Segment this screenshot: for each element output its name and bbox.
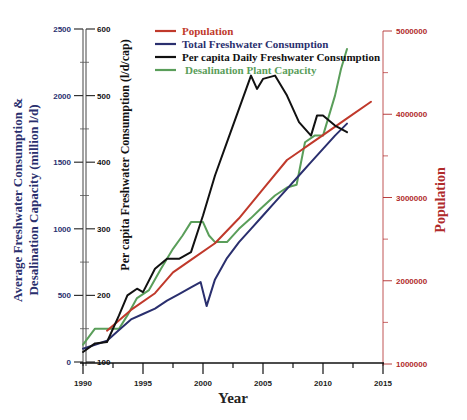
legend-label: Population [182, 25, 233, 37]
left-axis: 01005002001000300150040020005002500600 [53, 25, 111, 367]
per-capita-tick-label: 500 [97, 92, 111, 101]
left-axis-title-line1: Average Freshwater Consumption & [10, 98, 25, 302]
right-tick-label: 3000000 [396, 194, 428, 203]
left-tick-label: 1500 [53, 158, 71, 167]
x-tick-label: 2010 [314, 379, 332, 388]
left-tick-label: 0 [67, 358, 72, 367]
x-tick-label: 1990 [74, 379, 92, 388]
right-tick-label: 4000000 [396, 110, 428, 119]
per-capita-tick-label: 300 [97, 225, 111, 234]
per-capita-tick-label: 200 [97, 291, 111, 300]
left-tick-label: 1000 [53, 225, 71, 234]
legend-label: Desalination Plant Capacity [185, 64, 317, 76]
x-axis: 199019952000200520102015 [74, 363, 392, 388]
legend-label: Per capita Daily Freshwater Consumption [182, 51, 380, 63]
right-axis-title: Population [433, 167, 448, 233]
right-tick-label: 1000000 [396, 360, 428, 369]
x-tick-label: 1995 [134, 379, 152, 388]
left-tick-label: 500 [58, 291, 72, 300]
right-tick-label: 5000000 [396, 27, 428, 36]
legend-label: Total Freshwater Consumption [182, 38, 328, 50]
right-axis: 10000002000000300000040000005000000 [383, 27, 428, 369]
per-capita-tick-label: 400 [97, 158, 111, 167]
per-capita-tick-label: 600 [97, 25, 111, 34]
per-capita-axis-title: Per capita Freshwater Consumption (l/d/c… [118, 39, 132, 270]
x-axis-title: Year [218, 390, 248, 406]
x-tick-label: 2015 [374, 379, 392, 388]
series-population [107, 102, 371, 331]
left-axis-title-line2: Desalination Capacity (million l/d) [26, 104, 41, 295]
chart: 01005002001000300150040020005002500600 1… [0, 0, 467, 420]
x-tick-label: 2005 [254, 379, 272, 388]
legend: PopulationTotal Freshwater ConsumptionPe… [155, 25, 380, 76]
right-tick-label: 2000000 [396, 277, 428, 286]
left-tick-label: 2500 [53, 25, 71, 34]
x-tick-label: 2000 [194, 379, 212, 388]
left-tick-label: 2000 [53, 92, 71, 101]
